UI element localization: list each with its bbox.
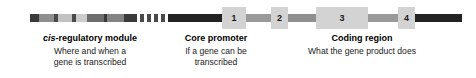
caption-coding-region: Coding regionWhat the gene product does — [262, 33, 462, 57]
cis-segment-9 — [107, 14, 124, 22]
caption-row: cis-regulatory moduleWhere and when agen… — [0, 33, 476, 78]
caption-cis-regulatory-module-title: cis-regulatory module — [10, 33, 170, 44]
caption-cis-regulatory-module-title-italic: cis — [43, 33, 56, 43]
caption-cis-regulatory-module: cis-regulatory moduleWhere and when agen… — [10, 33, 170, 68]
caption-core-promoter-title: Core promoter — [160, 33, 272, 44]
caption-core-promoter-title-text: Core promoter — [185, 33, 248, 43]
terminal-segment — [415, 14, 462, 22]
intergenic-tick-1 — [140, 14, 144, 22]
intergenic-tick-2 — [147, 14, 151, 22]
cis-segment-2 — [39, 14, 54, 22]
cis-segment-10 — [124, 14, 137, 22]
exon-box-2: 2 — [271, 7, 288, 29]
exon-box-4-label: 4 — [404, 13, 409, 23]
caption-cis-regulatory-module-body: Where and when agene is transcribed — [10, 46, 170, 68]
cis-segment-4 — [58, 14, 72, 22]
caption-coding-region-body: What the gene product does — [262, 46, 462, 57]
caption-cis-regulatory-module-body-line: gene is transcribed — [10, 57, 170, 68]
cis-segment-1 — [30, 14, 39, 22]
intron-segment-2 — [288, 14, 316, 22]
caption-coding-region-body-line: What the gene product does — [262, 46, 462, 57]
exon-box-4: 4 — [398, 7, 415, 29]
intergenic-tick-3 — [154, 14, 158, 22]
caption-coding-region-title: Coding region — [262, 33, 462, 44]
exon-box-2-label: 2 — [277, 13, 282, 23]
cis-segment-6 — [76, 14, 87, 22]
intron-segment-3 — [368, 14, 398, 22]
core-promoter-segment — [168, 14, 222, 22]
exon-box-1-label: 1 — [231, 13, 236, 23]
caption-cis-regulatory-module-body-line: Where and when a — [10, 46, 170, 57]
caption-core-promoter-body-line: If a gene can be — [160, 46, 272, 57]
gene-bar: 1234 — [0, 0, 476, 33]
exon-box-3: 3 — [316, 7, 368, 29]
exon-box-3-label: 3 — [339, 13, 344, 23]
caption-core-promoter-body-line: transcribed — [160, 57, 272, 68]
caption-core-promoter-body: If a gene can betranscribed — [160, 46, 272, 68]
caption-cis-regulatory-module-title-text: -regulatory module — [56, 33, 138, 43]
gene-structure-diagram: 1234 cis-regulatory moduleWhere and when… — [0, 0, 476, 78]
cis-segment-7 — [87, 14, 104, 22]
intron-segment-1 — [246, 14, 271, 22]
exon-box-1: 1 — [222, 7, 246, 29]
caption-coding-region-title-text: Coding region — [332, 33, 393, 43]
intergenic-tick-4 — [161, 14, 165, 22]
caption-core-promoter: Core promoterIf a gene can betranscribed — [160, 33, 272, 68]
